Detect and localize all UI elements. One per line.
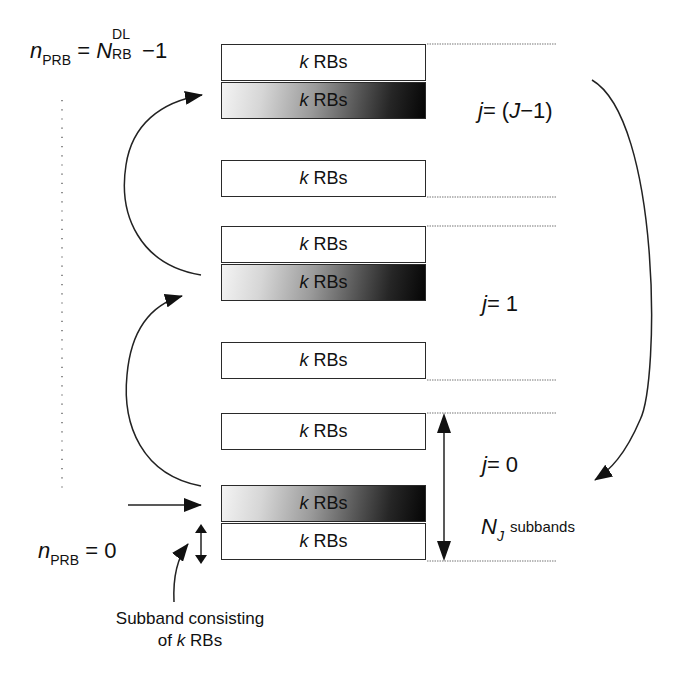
hop-arrow-j1-to-jJ-1: [124, 95, 202, 275]
hop-arrow-j0-to-j1: [126, 296, 201, 486]
nj-arrow-up: [437, 413, 451, 433]
connector-layer: [0, 0, 679, 684]
caption-pointer-arrow: [174, 544, 188, 602]
subband-boundary-lines: [427, 44, 557, 561]
diagram-canvas: nPRB = NDLRB−1 nPRB = 0 kRBs kRBs kRBs k…: [0, 0, 679, 684]
subband-arrow-down: [195, 555, 207, 564]
nj-arrow-down: [437, 541, 451, 561]
wraparound-arrow: [592, 80, 652, 480]
subband-arrow-up: [195, 524, 207, 533]
